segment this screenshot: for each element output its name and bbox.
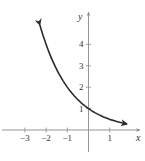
- x-axis-label: x: [135, 132, 141, 143]
- y-axis-label: y: [77, 11, 83, 22]
- x-tick-label: −2: [41, 133, 51, 143]
- exponential-graph: −3−2−11 1234 x y: [0, 0, 145, 161]
- x-tick-label: −3: [20, 133, 30, 143]
- x-tick-label: −1: [63, 133, 73, 143]
- y-tick-label: 3: [79, 61, 84, 71]
- y-tick-label: 4: [79, 39, 84, 49]
- x-tick-label: 1: [107, 133, 112, 143]
- y-tick-label: 2: [79, 82, 84, 92]
